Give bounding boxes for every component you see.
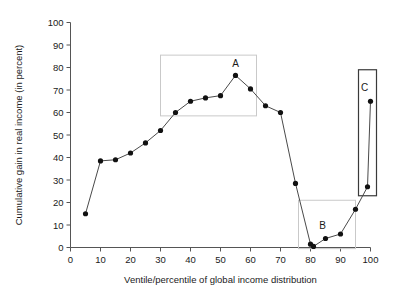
elephant-curve-chart: 0102030405060708090100 01020304050607080…: [0, 0, 394, 292]
data-point: [293, 181, 298, 186]
x-tick-label: 30: [155, 254, 166, 265]
x-axis-title: Ventile/percentile of global income dist…: [124, 274, 317, 285]
data-series-points: [83, 73, 373, 249]
data-point: [233, 73, 238, 78]
data-point: [278, 110, 283, 115]
annotation-boxes: [161, 55, 377, 249]
y-tick-label: 10: [53, 220, 64, 231]
data-point: [83, 211, 88, 216]
x-tick-label: 70: [275, 254, 286, 265]
y-axis-tick-labels: 0102030405060708090100: [48, 17, 64, 253]
y-axis-ticks: [67, 23, 71, 248]
data-point: [158, 128, 163, 133]
data-point: [311, 244, 316, 249]
y-tick-label: 40: [53, 152, 64, 163]
x-tick-label: 20: [125, 254, 136, 265]
data-point: [365, 184, 370, 189]
data-series-line: [86, 75, 371, 246]
chart-container: 0102030405060708090100 01020304050607080…: [0, 0, 394, 292]
data-point: [353, 207, 358, 212]
y-tick-label: 30: [53, 175, 64, 186]
data-point: [188, 99, 193, 104]
x-tick-label: 100: [363, 254, 379, 265]
y-tick-label: 0: [58, 242, 63, 253]
y-tick-label: 80: [53, 62, 64, 73]
x-tick-label: 60: [245, 254, 256, 265]
y-tick-label: 20: [53, 197, 64, 208]
data-point: [263, 103, 268, 108]
annotation-labels: ABC: [232, 58, 368, 231]
data-point: [173, 110, 178, 115]
x-tick-label: 80: [305, 254, 316, 265]
data-point: [218, 93, 223, 98]
y-tick-label: 50: [53, 130, 64, 141]
annotation-label-a: A: [232, 58, 239, 69]
data-point: [128, 150, 133, 155]
data-point: [98, 158, 103, 163]
data-point: [248, 86, 253, 91]
data-point: [338, 231, 343, 236]
x-axis-ticks: [71, 248, 371, 252]
data-point: [143, 140, 148, 145]
annotation-box-b: [299, 200, 356, 248]
data-point: [323, 236, 328, 241]
y-tick-label: 90: [53, 40, 64, 51]
y-axis-title: Cumulative gain in real income (in perce…: [13, 45, 24, 226]
x-tick-label: 90: [335, 254, 346, 265]
data-point: [203, 95, 208, 100]
x-tick-label: 0: [68, 254, 73, 265]
x-tick-label: 10: [95, 254, 106, 265]
annotation-label-c: C: [361, 82, 368, 93]
y-tick-label: 70: [53, 85, 64, 96]
x-tick-label: 40: [185, 254, 196, 265]
x-tick-label: 50: [215, 254, 226, 265]
x-axis-tick-labels: 0102030405060708090100: [68, 254, 379, 265]
y-tick-label: 60: [53, 107, 64, 118]
data-point: [368, 99, 373, 104]
annotation-box-a: [161, 55, 257, 116]
annotation-label-b: B: [319, 220, 326, 231]
y-tick-label: 100: [48, 17, 64, 28]
data-point: [113, 157, 118, 162]
